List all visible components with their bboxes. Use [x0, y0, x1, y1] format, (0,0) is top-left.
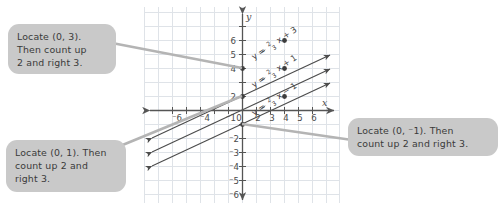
- callout-top-line2: Then count up: [17, 43, 107, 56]
- callout-right-line1: Locate (0, ⁻1). Then: [357, 124, 489, 137]
- callout-locate-0-1[interactable]: Locate (0, 1). Then count up 2 and right…: [6, 140, 126, 192]
- callout-right-line2: count up 2 and right 3.: [357, 137, 489, 150]
- callout-top-line1: Locate (0, 3).: [17, 30, 107, 43]
- callout-locate-0-neg1[interactable]: Locate (0, ⁻1). Then count up 2 and righ…: [348, 118, 498, 156]
- leader-to-point-0-n1: [242, 124, 352, 140]
- callout-bottom-line2: count up 2 and: [15, 159, 117, 172]
- leader-to-point-0-3: [112, 43, 242, 68]
- callout-bottom-line3: right 3.: [15, 172, 117, 185]
- callout-locate-0-3[interactable]: Locate (0, 3). Then count up 2 and right…: [8, 24, 116, 74]
- figure-canvas: ⁻6 ⁻4 ⁻1 0 2 3 4 5 6 6 5 4 2 ⁻2 ⁻3 ⁻4 ⁻5…: [0, 0, 502, 210]
- callout-bottom-line1: Locate (0, 1). Then: [15, 146, 117, 159]
- callout-top-line3: 2 and right 3.: [17, 56, 107, 69]
